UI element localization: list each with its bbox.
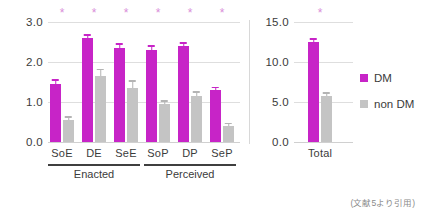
group-bracket-label: Perceived [166,168,215,180]
bar-group [308,22,332,142]
y-axis-tick-label: 15.0 [265,16,294,28]
significance-marker: * [60,7,65,19]
group-bracket-label: Enacted [74,168,114,180]
error-bar [87,34,89,38]
error-bar [196,91,198,96]
y-axis-tick-label: 2.0 [26,56,48,68]
x-axis-tick-label: SoP [147,147,168,159]
bar-dm [50,84,61,142]
error-bar [215,87,217,90]
bar-non-dm [223,126,234,142]
bar-group [82,22,106,142]
bar-dm [210,90,221,142]
x-axis-tick-label: SoE [51,147,72,159]
bar-non-dm [63,120,74,142]
axis-baseline [294,142,353,143]
error-bar [228,123,230,126]
bar-group [146,22,170,142]
legend-swatch-icon [360,100,368,108]
axis-baseline [48,142,240,143]
x-axis-tick-label: DP [182,147,198,159]
significance-marker: * [156,7,161,19]
y-axis-tick-label: 3.0 [26,16,48,28]
legend-swatch-icon [360,74,368,82]
panel-divider [249,20,250,144]
y-axis-tick-label: 0.0 [26,136,48,148]
error-bar [100,69,102,76]
bar-group [50,22,74,142]
y-axis-tick-label: 1.0 [26,96,48,108]
significance-marker: * [92,7,97,19]
error-bar [326,92,328,96]
right-plot-area: 15.010.05.00.0 [294,22,353,142]
bar-non-dm [95,76,106,142]
x-axis-tick-label: DE [86,147,102,159]
significance-marker: * [188,7,193,19]
bar-non-dm [321,96,332,142]
x-axis-tick-label: SeP [211,147,232,159]
legend-label: DM [374,72,392,84]
error-bar [119,43,121,48]
bar-dm [114,48,125,142]
bar-group [114,22,138,142]
left-plot-area: 3.02.01.00.0 [48,22,240,142]
legend-item: non DM [360,98,414,110]
bar-non-dm [159,104,170,142]
legend-item: DM [360,72,392,84]
error-bar [164,100,166,104]
bar-dm [308,42,319,142]
y-axis-tick-label: 0.0 [272,136,294,148]
significance-marker: * [220,7,225,19]
y-axis-tick-label: 10.0 [265,56,294,68]
left-panel: 3.02.01.00.0 SoE*DE*SeE*SoP*DP*SeP*Enact… [0,0,248,212]
chart-legend: DMnon DM [360,72,420,112]
significance-marker: * [124,7,129,19]
x-axis-tick-label: SeE [115,147,136,159]
y-axis-tick-label: 5.0 [272,96,294,108]
legend-label: non DM [374,98,414,110]
bar-group [210,22,234,142]
error-bar [183,42,185,46]
group-bracket [48,164,140,166]
group-bracket [144,164,236,166]
figure-caption: (文献5より引用) [351,196,415,208]
bar-dm [82,38,93,142]
significance-marker: * [318,7,323,19]
chart-figure: 3.02.01.00.0 SoE*DE*SeE*SoP*DP*SeP*Enact… [0,0,421,212]
bar-non-dm [127,88,138,142]
error-bar [132,80,134,88]
x-axis-tick-label: Total [308,147,332,159]
bar-dm [178,46,189,142]
right-panel: 15.010.05.00.0 Total* [252,0,357,212]
error-bar [68,116,70,120]
bar-group [178,22,202,142]
bar-dm [146,50,157,142]
error-bar [151,45,153,50]
bar-non-dm [191,96,202,142]
error-bar [55,79,57,84]
error-bar [313,38,315,42]
